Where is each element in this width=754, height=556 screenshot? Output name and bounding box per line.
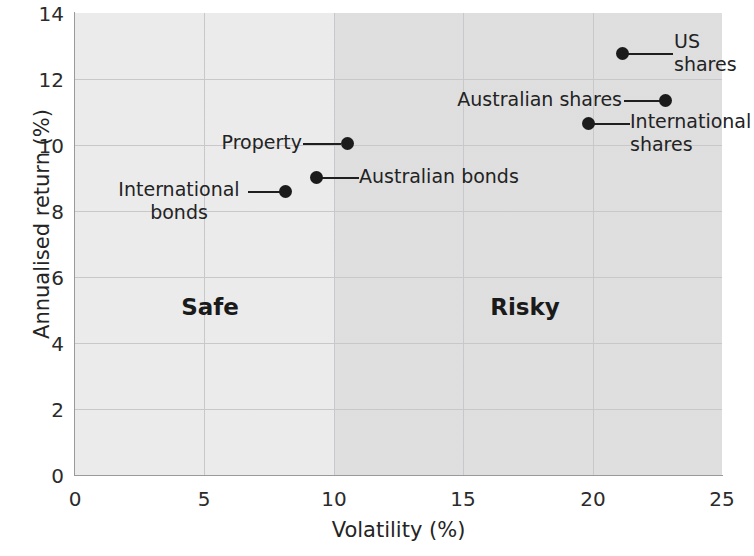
gridline-y-2 <box>75 409 722 410</box>
leader-line-australian-bonds <box>321 177 359 179</box>
data-point-international-bonds[interactable] <box>279 185 292 198</box>
region-label-safe: Safe <box>160 294 260 320</box>
scatter-chart: 14 12 10 8 6 4 2 0 0 5 10 15 20 25 Annua… <box>0 0 754 556</box>
leader-line-international-shares <box>593 123 630 125</box>
x-tick-20: 20 <box>563 487 623 511</box>
y-axis-title: Annualised return (%) <box>30 14 54 434</box>
gridline-x-5 <box>204 13 205 475</box>
x-tick-15: 15 <box>433 487 493 511</box>
gridline-x-20 <box>593 13 594 475</box>
leader-line-australian-shares <box>624 100 660 102</box>
point-label-australian-shares: Australian shares <box>432 88 622 111</box>
x-tick-25: 25 <box>692 487 752 511</box>
gridline-y-6 <box>75 277 722 278</box>
region-label-risky: Risky <box>475 294 575 320</box>
gridline-y-12 <box>75 79 722 80</box>
point-label-us-shares: US shares <box>674 30 754 76</box>
data-point-international-shares[interactable] <box>582 117 595 130</box>
x-tick-10: 10 <box>304 487 364 511</box>
leader-line-property <box>303 143 341 145</box>
x-axis-line <box>74 475 723 476</box>
data-point-australian-shares[interactable] <box>659 94 672 107</box>
y-axis-line <box>74 12 75 476</box>
x-tick-0: 0 <box>45 487 105 511</box>
plot-area <box>75 13 722 475</box>
x-axis-title: Volatility (%) <box>75 518 722 542</box>
point-label-property: Property <box>170 131 302 154</box>
data-point-us-shares[interactable] <box>616 47 629 60</box>
gridline-x-15 <box>463 13 464 475</box>
region-band-risky <box>334 13 722 475</box>
gridline-y-4 <box>75 343 722 344</box>
gridline-x-10 <box>334 13 335 475</box>
data-point-australian-bonds[interactable] <box>310 171 323 184</box>
leader-line-us-shares <box>627 53 673 55</box>
y-tick-0: 0 <box>22 464 64 488</box>
data-point-property[interactable] <box>341 137 354 150</box>
x-tick-5: 5 <box>174 487 234 511</box>
point-label-international-bonds: International bonds <box>108 178 250 224</box>
leader-line-international-bonds <box>248 191 281 193</box>
point-label-international-shares: International shares <box>630 110 754 156</box>
point-label-australian-bonds: Australian bonds <box>359 165 559 188</box>
